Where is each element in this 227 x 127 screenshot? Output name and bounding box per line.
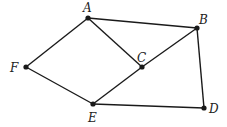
node-label-f: F	[9, 61, 19, 75]
node-label-d: D	[208, 102, 219, 116]
edge-c-e	[93, 67, 142, 104]
node-e	[90, 101, 95, 106]
node-label-c: C	[137, 51, 146, 65]
labels-group: ABCDEF	[9, 1, 219, 125]
node-label-a: A	[82, 1, 92, 15]
edge-a-f	[26, 18, 88, 67]
node-d	[201, 105, 206, 110]
node-f	[23, 64, 28, 69]
edge-b-c	[142, 28, 197, 67]
edge-b-d	[197, 28, 204, 108]
edges-group	[26, 18, 204, 108]
edge-a-c	[88, 18, 142, 67]
node-a	[85, 15, 90, 20]
node-c	[139, 64, 144, 69]
node-label-b: B	[198, 13, 208, 27]
nodes-group	[23, 15, 206, 110]
edge-a-b	[88, 18, 197, 28]
graph-diagram: ABCDEF	[0, 0, 227, 127]
edge-e-d	[93, 104, 204, 108]
node-label-e: E	[87, 111, 97, 125]
edge-f-e	[26, 67, 93, 104]
